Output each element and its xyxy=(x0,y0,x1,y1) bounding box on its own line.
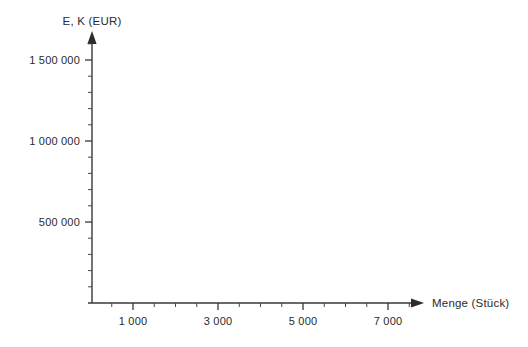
y-axis-tick-label: 1 000 000 xyxy=(29,135,80,147)
x-axis-title: Menge (Stück) xyxy=(432,297,509,309)
y-axis-title: E, K (EUR) xyxy=(63,15,122,27)
x-axis-tick-label: 1 000 xyxy=(119,315,148,327)
y-axis-tick-label: 1 500 000 xyxy=(29,54,80,66)
x-axis-tick-label: 7 000 xyxy=(374,315,403,327)
x-axis-tick-label: 5 000 xyxy=(289,315,318,327)
y-axis-tick-label: 500 000 xyxy=(39,216,80,228)
coordinate-system-figure: 500 0001 000 0001 500 000 E, K (EUR) 1 0… xyxy=(0,0,528,347)
chart-background xyxy=(0,0,528,347)
x-axis-tick-label: 3 000 xyxy=(204,315,233,327)
chart-canvas: 500 0001 000 0001 500 000 E, K (EUR) 1 0… xyxy=(0,0,528,347)
